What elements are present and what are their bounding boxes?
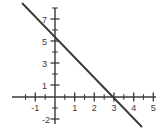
y-tick-label-seven: 7 xyxy=(42,15,47,25)
y-tick-label-five: 5 xyxy=(42,37,47,47)
x-tick-label-three: 3 xyxy=(111,103,116,113)
x-tick-label-neg-one: -1 xyxy=(31,103,39,113)
coordinate-graph: -1 1 2 3 4 5 7 5 3 1 -2 xyxy=(0,0,165,134)
y-tick-label-neg-two: -2 xyxy=(42,115,50,125)
y-tick-label-one: 1 xyxy=(42,81,47,91)
x-tick-label-four: 4 xyxy=(131,103,136,113)
y-tick-label-three: 3 xyxy=(42,59,47,69)
plotted-line xyxy=(23,4,142,127)
x-tick-label-one: 1 xyxy=(72,103,77,113)
plot-area: -1 1 2 3 4 5 7 5 3 1 -2 xyxy=(0,0,165,134)
x-tick-label-two: 2 xyxy=(92,103,97,113)
x-tick-label-five: 5 xyxy=(151,103,156,113)
